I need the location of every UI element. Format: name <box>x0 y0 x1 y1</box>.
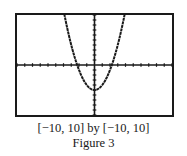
parabola-plot <box>17 15 172 115</box>
figure-caption: Figure 3 <box>0 136 187 150</box>
window-range-label: [−10, 10] by [−10, 10] <box>0 121 187 135</box>
calculator-graph-window <box>15 13 174 117</box>
